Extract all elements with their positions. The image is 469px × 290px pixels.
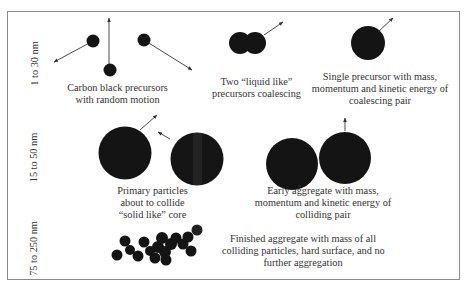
precursor-particles — [54, 18, 192, 77]
size-label-row-3: 75 to 250 nm — [28, 212, 39, 286]
motion-arrow-icon — [54, 41, 93, 62]
motion-arrow-icon — [264, 22, 283, 35]
primary-particles — [99, 115, 224, 186]
precursor-dot-icon — [138, 34, 151, 47]
caption-early-aggregate: Early aggregate with mass, momentum and … — [248, 185, 398, 221]
finished-aggregate — [112, 225, 203, 266]
motion-arrow-icon — [140, 115, 157, 130]
motion-arrow-icon — [144, 40, 192, 70]
caption-precursors-random-motion: Carbon black precursors with random moti… — [60, 82, 175, 106]
coalescing-pair — [229, 22, 283, 54]
size-label-row-2: 15 to 50 nm — [28, 125, 39, 191]
single-precursor — [351, 18, 393, 60]
motion-arrow-icon — [378, 18, 393, 32]
precursor-dot-icon — [87, 35, 100, 48]
caption-primary-particles: Primary particles about to collide “soli… — [100, 185, 205, 221]
motion-arrow-icon — [158, 132, 170, 139]
caption-finished-aggregate: Finished aggregate with mass of all coll… — [222, 233, 384, 269]
caption-liquid-like-coalescing: Two “liquid like” precursors coalescing — [204, 76, 309, 100]
precursor-dot-icon — [104, 64, 117, 77]
caption-single-precursor: Single precursor with mass, momentum and… — [305, 71, 455, 107]
early-aggregate — [266, 118, 371, 190]
size-label-row-1: 1 to 30 nm — [29, 34, 40, 94]
